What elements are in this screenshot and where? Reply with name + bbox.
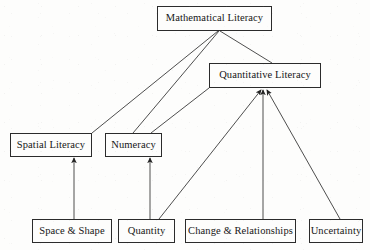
node-uncertainty[interactable]: Uncertainty — [309, 219, 363, 243]
edge-quantitative-to-numeracy — [151, 88, 209, 133]
node-quantity[interactable]: Quantity — [118, 219, 175, 243]
node-numeracy[interactable]: Numeracy — [105, 133, 162, 157]
node-label-uncertainty: Uncertainty — [309, 226, 364, 237]
node-mathematical-literacy[interactable]: Mathematical Literacy — [157, 6, 272, 31]
node-label-mathematical-literacy: Mathematical Literacy — [164, 13, 265, 24]
node-quantitative-literacy[interactable]: Quantitative Literacy — [209, 63, 321, 88]
edge-math-to-numeracy — [133, 31, 219, 133]
node-label-numeracy: Numeracy — [109, 140, 158, 151]
edge-math-to-spatial — [92, 31, 218, 133]
node-label-quantity: Quantity — [126, 226, 168, 237]
node-space-and-shape[interactable]: Space & Shape — [32, 219, 112, 243]
node-label-quantitative-literacy: Quantitative Literacy — [217, 70, 313, 81]
node-label-space-and-shape: Space & Shape — [37, 226, 106, 237]
node-spatial-literacy[interactable]: Spatial Literacy — [10, 133, 92, 157]
diagram-canvas: Mathematical LiteracyQuantitative Litera… — [0, 0, 370, 250]
diagram-edge-layer — [0, 0, 370, 250]
edge-uncertainty-to-quantitative — [267, 90, 340, 219]
node-label-change-and-relationships: Change & Relationships — [186, 226, 295, 237]
edge-quantity-to-quantitative — [159, 90, 261, 219]
edge-group — [74, 31, 340, 219]
node-label-spatial-literacy: Spatial Literacy — [15, 140, 87, 151]
edge-math-to-quantitative — [220, 31, 272, 63]
node-change-and-relationships[interactable]: Change & Relationships — [185, 219, 296, 243]
